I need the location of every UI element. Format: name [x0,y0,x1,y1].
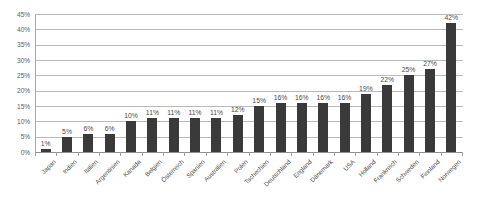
bar-slot: 16% [291,14,312,152]
bar [404,75,414,152]
y-axis-tick-label: 15% [17,103,30,110]
x-axis-category-label: Polen [232,158,248,174]
x-axis-tick [249,152,250,156]
bar-slot: 22% [377,14,398,152]
bar-slot: 15% [249,14,270,152]
y-axis-tick-label: 25% [17,72,30,79]
bar-value-label: 1% [41,140,51,148]
bar-slot: 11% [142,14,163,152]
x-axis-tick [227,152,228,156]
bar [382,85,392,152]
bar-value-label: 15% [252,97,266,105]
bar-value-label: 16% [338,94,352,102]
x-axis-tick [78,152,79,156]
bar-value-label: 16% [274,94,288,102]
x-axis-tick [56,152,57,156]
bar-slot: 16% [270,14,291,152]
bar-slot: 1% [35,14,56,152]
bar [340,103,350,152]
bar-slot: 16% [313,14,334,152]
x-axis-tick [184,152,185,156]
bar-slot: 11% [184,14,205,152]
bar-value-label: 6% [83,125,93,133]
bar [147,118,157,152]
bar [105,134,115,152]
bar-chart: 0%5%10%15%20%25%30%35%40%45% 1%5%6%6%10%… [0,0,479,206]
x-axis-tick [334,152,335,156]
bar-slot: 11% [206,14,227,152]
bar-slot: 11% [163,14,184,152]
bar [233,115,243,152]
x-axis-category-label: USA [341,158,355,172]
bar [126,121,136,152]
bar-slot: 12% [227,14,248,152]
y-axis-tick-label: 30% [17,57,30,64]
bar-value-label: 11% [146,109,159,117]
bars-layer: 1%5%6%6%10%11%11%11%11%12%15%16%16%16%16… [35,14,462,152]
bar-value-label: 6% [105,125,115,133]
x-axis-tick [313,152,314,156]
y-axis-tick-label: 20% [17,87,30,94]
x-axis-tick [206,152,207,156]
x-axis-layer: JapanIndienItalienArgentinienKanadaBelgi… [35,152,462,206]
bar-value-label: 11% [189,109,202,117]
x-axis-category-label: Belgien [144,158,164,178]
bar-value-label: 11% [210,109,223,117]
bar-value-label: 27% [423,60,437,68]
bar [190,118,200,152]
bar [254,106,264,152]
bar-value-label: 19% [359,85,373,93]
y-axis-tick-label: 35% [17,41,30,48]
x-axis-tick [441,152,442,156]
bar-value-label: 25% [402,66,416,74]
x-axis-tick [142,152,143,156]
bar [211,118,221,152]
x-axis-tick [462,152,463,156]
x-axis-tick [99,152,100,156]
y-axis-tick-label: 40% [17,26,30,33]
bar-value-label: 10% [124,112,138,120]
y-axis-labels: 0%5%10%15%20%25%30%35%40%45% [0,0,33,206]
bar-slot: 27% [419,14,440,152]
bar-value-label: 42% [445,14,459,22]
bar-value-label: 12% [231,106,245,114]
bar [446,23,456,152]
bar-value-label: 16% [295,94,309,102]
x-axis-category-label: Italien [83,158,100,175]
y-axis-tick-label: 45% [17,11,30,18]
bar-slot: 25% [398,14,419,152]
bar [297,103,307,152]
x-axis-category-label: Österreich [159,158,184,183]
x-axis-tick [120,152,121,156]
x-axis-category-label: Indien [61,158,78,175]
x-axis-tick [355,152,356,156]
bar [83,134,93,152]
bar [361,94,371,152]
x-axis-category-label: Norwegen [437,158,462,183]
bar-slot: 19% [355,14,376,152]
x-axis-tick [398,152,399,156]
x-axis-tick [377,152,378,156]
x-axis-category-label: Japan [40,158,57,175]
y-axis-tick-label: 5% [21,133,30,140]
bar [425,69,435,152]
x-axis-tick [270,152,271,156]
bar-slot: 42% [441,14,462,152]
x-axis-category-label: Holland [357,158,377,178]
bar-value-label: 16% [316,94,330,102]
bar-value-label: 22% [380,76,394,84]
y-axis-tick-label: 10% [17,118,30,125]
y-axis-tick-label: 0% [21,149,30,156]
x-axis-tick [35,152,36,156]
x-axis-tick [163,152,164,156]
bar-value-label: 5% [62,128,72,136]
bar [318,103,328,152]
bar [169,118,179,152]
bar [276,103,286,152]
bar [62,137,72,152]
x-axis-category-label: Kanada [122,158,142,178]
bar-value-label: 11% [167,109,180,117]
x-axis-category-label: Australien [203,158,228,183]
bar-slot: 6% [99,14,120,152]
bar-slot: 16% [334,14,355,152]
